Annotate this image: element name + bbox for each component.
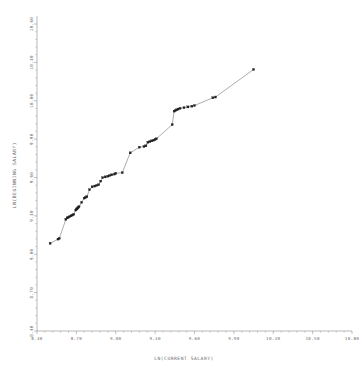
series-line <box>50 69 253 243</box>
x-tick-label: 8.70 <box>71 336 83 341</box>
data-point-marker <box>179 107 181 109</box>
scatter-plot: 8.408.709.009.309.609.9010.0010.3010.60 … <box>0 0 364 368</box>
data-series <box>49 68 255 244</box>
data-point-marker <box>177 108 179 110</box>
x-axis-title: LN(CURRENT SALARY) <box>154 356 214 361</box>
data-point-marker <box>81 201 83 203</box>
data-point-marker <box>191 105 193 107</box>
x-tick-label: 9.30 <box>149 336 161 341</box>
data-point-marker <box>58 237 60 239</box>
data-point-marker <box>96 184 98 186</box>
data-point-marker <box>104 176 106 178</box>
data-point-marker <box>145 145 147 147</box>
data-point-marker <box>214 96 216 98</box>
data-point-marker <box>98 184 100 186</box>
data-point-marker <box>115 172 117 174</box>
x-axis: 8.408.709.009.309.609.9010.2010.5010.80 <box>31 331 359 341</box>
data-point-marker <box>94 185 96 187</box>
y-axis: 8.408.709.009.309.609.9010.0010.3010.60 <box>29 16 38 337</box>
y-tick-label: 8.40 <box>29 325 34 337</box>
data-point-marker <box>193 104 195 106</box>
data-point-marker <box>100 180 102 182</box>
data-point-marker <box>111 174 113 176</box>
data-point-marker <box>121 172 123 174</box>
data-point-marker <box>88 189 90 191</box>
data-point-marker <box>147 141 149 143</box>
data-point-marker <box>91 186 93 188</box>
data-point-marker <box>73 213 75 215</box>
data-point-marker <box>107 175 109 177</box>
data-point-marker <box>78 206 80 208</box>
data-point-marker <box>49 242 51 244</box>
y-tick-label: 10.00 <box>29 93 34 107</box>
data-point-marker <box>129 152 131 154</box>
data-point-marker <box>149 141 151 143</box>
data-point-marker <box>86 196 88 198</box>
y-tick-label: 10.30 <box>29 55 34 69</box>
data-point-marker <box>253 68 255 70</box>
data-point-marker <box>151 140 153 142</box>
y-tick-label: 10.60 <box>29 17 34 31</box>
x-tick-label: 8.40 <box>31 336 43 341</box>
y-tick-label: 8.70 <box>29 287 34 299</box>
chart-container: 8.408.709.009.309.609.9010.0010.3010.60 … <box>0 0 364 368</box>
data-point-marker <box>102 177 104 179</box>
y-axis-title: LN(BEGINNING SALARY) <box>12 142 17 208</box>
y-tick-label: 9.30 <box>29 210 34 222</box>
data-point-marker <box>155 138 157 140</box>
x-tick-label: 9.90 <box>228 336 240 341</box>
data-point-marker <box>187 106 189 108</box>
x-tick-label: 10.20 <box>266 336 280 341</box>
data-point-marker <box>212 97 214 99</box>
data-point-marker <box>143 145 145 147</box>
x-tick-label: 9.60 <box>189 336 201 341</box>
data-point-marker <box>171 124 173 126</box>
y-tick-label: 9.00 <box>29 248 34 260</box>
x-tick-label: 9.00 <box>110 336 122 341</box>
x-tick-label: 10.50 <box>305 336 319 341</box>
y-tick-label: 9.60 <box>29 172 34 184</box>
data-point-marker <box>109 174 111 176</box>
y-tick-label: 9.90 <box>29 133 34 145</box>
data-point-marker <box>138 146 140 148</box>
x-tick-label: 10.80 <box>345 336 359 341</box>
data-point-marker <box>183 107 185 109</box>
